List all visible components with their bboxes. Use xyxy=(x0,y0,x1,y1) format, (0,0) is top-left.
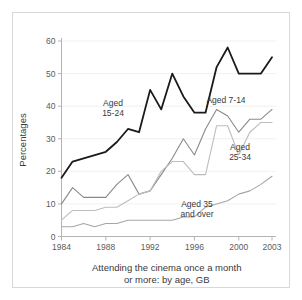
chart-figure: 0102030405060 198419881992199620002003 A… xyxy=(0,0,302,300)
y-tick-label-60: 60 xyxy=(46,36,56,46)
y-tick-label-10: 10 xyxy=(46,199,56,209)
y-tick-marks xyxy=(58,41,62,237)
series-line-aged-35-and-over xyxy=(62,176,273,227)
x-tick-label-1984: 1984 xyxy=(52,242,71,252)
axes xyxy=(62,38,277,237)
label-aged-7-14: Aged 7-14 xyxy=(206,95,245,105)
x-tick-label-1988: 1988 xyxy=(96,242,115,252)
x-tick-label-1992: 1992 xyxy=(141,242,160,252)
label-aged-15-24: Aged15-24 xyxy=(102,98,124,118)
label-aged-35-over: Aged 35and over xyxy=(180,199,213,219)
y-tick-labels: 0102030405060 xyxy=(46,36,56,242)
y-tick-label-40: 40 xyxy=(46,101,56,111)
y-tick-label-30: 30 xyxy=(46,134,56,144)
y-axis-title: Percentages xyxy=(17,113,28,167)
chart-caption: Attending the cinema once a monthor more… xyxy=(92,262,241,285)
y-tick-label-50: 50 xyxy=(46,69,56,79)
y-axis-title-text: Percentages xyxy=(17,113,28,167)
x-tick-label-1996: 1996 xyxy=(185,242,204,252)
y-tick-label-20: 20 xyxy=(46,166,56,176)
data-series-lines xyxy=(62,48,273,227)
chart-caption-text: Attending the cinema once a monthor more… xyxy=(92,262,241,285)
x-tick-marks xyxy=(62,237,273,241)
y-tick-label-0: 0 xyxy=(51,232,56,242)
label-aged-25-34: Aged25-34 xyxy=(229,142,251,162)
x-tick-label-2000: 2000 xyxy=(229,242,248,252)
x-tick-label-2003: 2003 xyxy=(263,242,282,252)
gridlines xyxy=(62,41,277,204)
x-tick-labels: 198419881992199620002003 xyxy=(52,242,282,252)
cinema-attendance-line-chart: 0102030405060 198419881992199620002003 A… xyxy=(0,0,302,300)
